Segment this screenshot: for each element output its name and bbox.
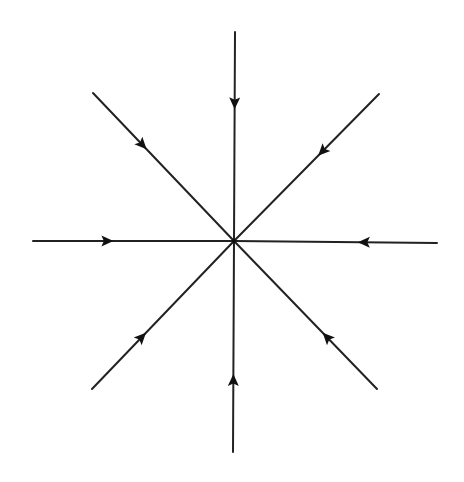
- ray-south-east: [234, 241, 377, 389]
- phase-portrait-canvas: [0, 0, 464, 482]
- star-node-diagram: [0, 0, 464, 482]
- ray-north: [234, 32, 235, 241]
- equilibrium-point: [232, 239, 236, 243]
- ray-north-west: [93, 93, 234, 241]
- ray-south: [233, 241, 234, 452]
- ray-south-west: [92, 241, 234, 389]
- ray-north-east: [234, 94, 379, 241]
- ray-east: [234, 241, 437, 243]
